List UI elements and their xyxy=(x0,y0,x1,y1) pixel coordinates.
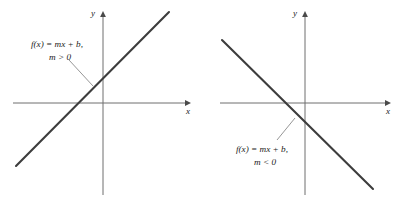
annotation-leader-line xyxy=(277,118,295,140)
x-axis-label: x xyxy=(185,106,190,116)
y-axis-arrowhead xyxy=(100,11,106,17)
function-line-positive xyxy=(16,12,169,166)
annotation-condition-line2: m > 0 xyxy=(49,52,71,62)
axes-negative xyxy=(220,11,391,195)
panel-positive-slope: y x f(x) = mx + b, m > 0 xyxy=(0,0,200,203)
panel-negative-slope: y x f(x) = mx + b, m < 0 xyxy=(200,0,401,203)
y-axis-arrowhead xyxy=(302,11,308,17)
y-axis-label: y xyxy=(90,8,95,18)
x-axis-label: x xyxy=(385,106,390,116)
annotation-leader-line xyxy=(69,60,93,86)
annotation-equation-line1: f(x) = mx + b, xyxy=(31,39,83,49)
annotation-equation-line1: f(x) = mx + b, xyxy=(236,144,288,154)
y-axis-label: y xyxy=(292,8,297,18)
annotation-condition-line2: m < 0 xyxy=(254,157,276,167)
linear-function-figure: y x f(x) = mx + b, m > 0 y x f(x) = mx +… xyxy=(0,0,401,203)
function-line-negative xyxy=(222,40,373,189)
